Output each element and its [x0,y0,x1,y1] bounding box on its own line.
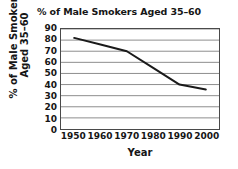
data-line-male-smokers [74,38,206,90]
y-tick-label: 40 [36,80,57,89]
y-axis-tick-labels: 9080706050403020100 [36,28,57,130]
y-axis-label: % of Male Smokers Aged 35–60 [3,0,35,97]
x-axis-label: Year [60,147,220,158]
y-tick-label: 0 [36,126,57,135]
chart-title: % of Male Smokers Aged 35–60 [0,6,238,17]
y-tick-label: 20 [36,103,57,112]
y-tick-label: 50 [36,69,57,78]
x-tick-label: 2000 [191,132,223,141]
y-tick-label: 70 [36,46,57,55]
y-tick-label: 30 [36,92,57,101]
y-tick-label: 90 [36,24,57,33]
x-axis-tick-labels: 195019601970198019902000 [60,132,220,145]
chart-figure: % of Male Smokers Aged 35–60 % of Male S… [0,0,238,169]
gridlines [61,29,219,118]
y-axis-label-line-1: % of Male Smokers [8,0,19,99]
y-tick-label: 60 [36,58,57,67]
y-tick-label: 10 [36,114,57,123]
y-axis-label-line-2: Aged 35–60 [19,12,30,77]
y-tick-label: 80 [36,35,57,44]
plot-area [60,28,220,130]
plot-svg [61,29,219,129]
